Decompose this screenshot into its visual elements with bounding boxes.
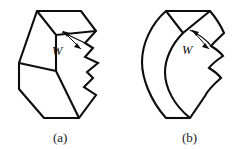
figure-b-width-label: W (182, 43, 194, 57)
figure-a-group: W (a) (19, 11, 98, 145)
figure-b-caption: (b) (182, 130, 197, 145)
figure-b-outline (142, 11, 224, 118)
figure-a-width-label: W (52, 44, 64, 58)
figure-a-caption: (a) (53, 130, 67, 145)
figure-canvas: W (a) W (b) (0, 0, 246, 149)
figure-b-group: W (b) (142, 11, 224, 145)
figure-panel: W (a) W (b) (0, 0, 246, 149)
